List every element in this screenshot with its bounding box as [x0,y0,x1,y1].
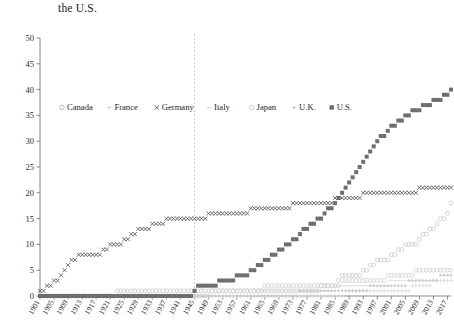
legend-item-france[interactable]: France [107,102,138,112]
x-axis-tick-label: 2001 [378,298,393,316]
y-axis: 05101520253035404550 [26,33,41,301]
x-axis-tick-label: 1989 [335,298,350,316]
y-axis-tick-label: 20 [26,188,35,198]
x-axis-tick-label: 1933 [139,298,154,316]
legend-label: U.S. [337,102,352,112]
x-axis-tick-label: 1973 [279,298,294,316]
x-axis-tick-label: 2009 [406,298,421,316]
chart-series [38,88,453,298]
x-axis-tick-label: 1929 [125,298,140,316]
y-axis-tick-label: 10 [26,239,35,249]
legend-item-germany[interactable]: Germany [155,102,195,112]
y-axis-tick-label: 50 [26,33,35,43]
x-axis-tick-label: 1945 [181,298,196,316]
legend-item-u-s[interactable]: U.S. [330,102,352,112]
x-axis: 1901190519091913191719211925192919331937… [26,296,451,316]
x-axis-tick-label: 1961 [237,298,252,316]
x-axis-tick-label: 1949 [195,298,210,316]
x-axis-tick-label: 1985 [321,298,336,316]
y-axis-tick-label: 5 [30,265,34,275]
legend-label: U.K. [299,102,316,112]
legend-item-u-k[interactable]: U.K. [293,102,316,112]
x-axis-tick-label: 1965 [251,298,266,316]
x-axis-tick-label: 2013 [420,298,435,316]
series-japan [38,268,453,298]
x-axis-tick-label: 1901 [26,298,41,316]
x-axis-tick-label: 1909 [54,298,69,316]
x-axis-tick-label: 1997 [364,298,379,316]
y-axis-tick-label: 30 [26,136,35,146]
y-axis-tick-label: 40 [26,85,35,95]
x-axis-tick-label: 1925 [111,298,126,316]
x-axis-tick-label: 1953 [209,298,224,316]
chart-plot-area: 05101520253035404550 1901190519091913191… [0,0,454,329]
x-axis-tick-label: 1937 [153,298,168,316]
y-axis-tick-label: 45 [26,59,35,69]
legend-label: Italy [214,102,230,112]
x-axis-tick-label: 1977 [293,298,308,316]
x-axis-tick-label: 1993 [350,298,365,316]
x-axis-tick-label: 1917 [83,298,98,316]
y-axis-tick-label: 15 [26,214,35,224]
legend-label: Canada [67,102,93,112]
legend-marker-x [155,105,159,109]
x-axis-tick-label: 1905 [40,298,55,316]
y-axis-tick-label: 35 [26,110,35,120]
x-axis-tick-label: 2017 [434,298,449,316]
legend-marker-dot [293,106,296,109]
x-axis-tick-label: 1981 [307,298,322,316]
legend-label: France [114,102,138,112]
x-axis-tick-label: 1921 [97,298,112,316]
y-axis-tick-label: 25 [26,162,35,172]
x-axis-tick-label: 1957 [223,298,238,316]
legend-marker-circle-open-light [249,105,253,109]
series-u-k [39,274,452,297]
x-axis-tick-label: 1913 [68,298,83,316]
legend-marker-plus [107,105,111,109]
legend-label: Japan [257,102,277,112]
legend-item-italy[interactable]: Italy [207,102,231,112]
chart-figure: the U.S. 05101520253035404550 1901190519… [0,0,454,329]
x-axis-tick-label: 1941 [167,298,182,316]
legend-marker-circle-open [60,105,64,109]
x-axis-tick-label: 1969 [265,298,280,316]
legend-item-canada[interactable]: Canada [60,102,93,112]
chart-legend[interactable]: CanadaFranceGermanyItalyJapanU.K.U.S. [60,102,352,112]
legend-marker-square-filled [330,105,334,109]
legend-item-japan[interactable]: Japan [249,102,276,112]
x-axis-tick-label: 2005 [392,298,407,316]
legend-label: Germany [162,102,195,112]
